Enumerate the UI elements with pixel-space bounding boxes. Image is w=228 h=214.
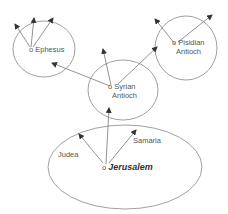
diagram-canvas [0, 0, 228, 214]
arrow-ephesus-nw [15, 24, 30, 47]
location-marker-icon: o [172, 38, 176, 47]
arrow-ephesus-n [31, 18, 34, 47]
syrian-antioch-label: o Syrian [108, 82, 136, 91]
arrow-jerusalem-samaria [109, 130, 136, 163]
samaria-label: Samaria [133, 136, 161, 145]
location-marker-icon: o [102, 163, 106, 172]
arrow-syrian-antioch-pisidian [118, 47, 157, 84]
arrow-syrian-antioch-north [103, 49, 111, 85]
ephesus-label: o Ephesus [29, 45, 64, 54]
judea-label: Judea [58, 150, 78, 159]
location-marker-icon: o [108, 82, 112, 91]
syrian-antioch-label-line2: Antioch [112, 91, 137, 100]
pisidian-antioch-label: o Pisidian [172, 38, 205, 47]
jerusalem-label: o Jerusalem [102, 163, 153, 172]
arrow-jerusalem-judea [79, 134, 103, 163]
arrow-ephesus-ne [33, 18, 53, 47]
location-marker-icon: o [29, 45, 33, 54]
pisidian-antioch-label-line2: Antioch [176, 47, 201, 56]
